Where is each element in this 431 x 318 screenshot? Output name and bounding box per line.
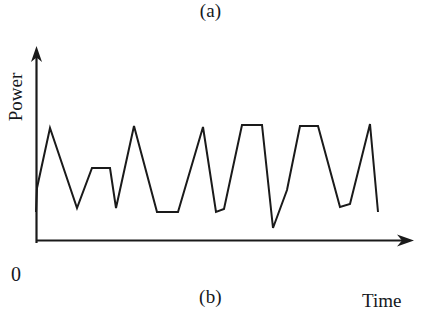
x-axis [36,235,414,247]
y-axis-label: Power [5,61,27,133]
figure-panel-b: (a) Power 0 Time (b) [0,0,431,318]
panel-caption-a: (a) [0,0,426,22]
power-vs-time-plot: Power 0 Time [0,38,431,253]
power-waveform-trace [36,124,378,228]
origin-label: 0 [11,263,21,286]
plot-svg [0,38,431,253]
y-axis [31,46,42,243]
panel-caption-b: (b) [0,286,426,308]
